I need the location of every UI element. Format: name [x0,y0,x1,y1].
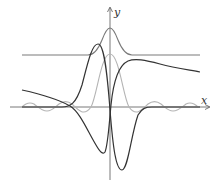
peak-curve [22,28,200,55]
dispersion-curve [22,60,200,154]
chart: x y [0,0,222,187]
x-axis-label: x [201,94,208,107]
y-axis-label: y [113,6,121,19]
